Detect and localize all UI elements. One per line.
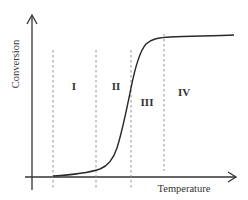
region-label-1: I <box>72 80 76 92</box>
y-axis-label: Conversion <box>10 39 21 88</box>
x-axis-label: Temperature <box>158 183 211 194</box>
region-label-3: III <box>141 96 154 108</box>
diagram-canvas: I II III IV Conversion Temperature <box>0 0 248 200</box>
region-label-2: II <box>112 80 121 92</box>
region-label-4: IV <box>178 86 190 98</box>
